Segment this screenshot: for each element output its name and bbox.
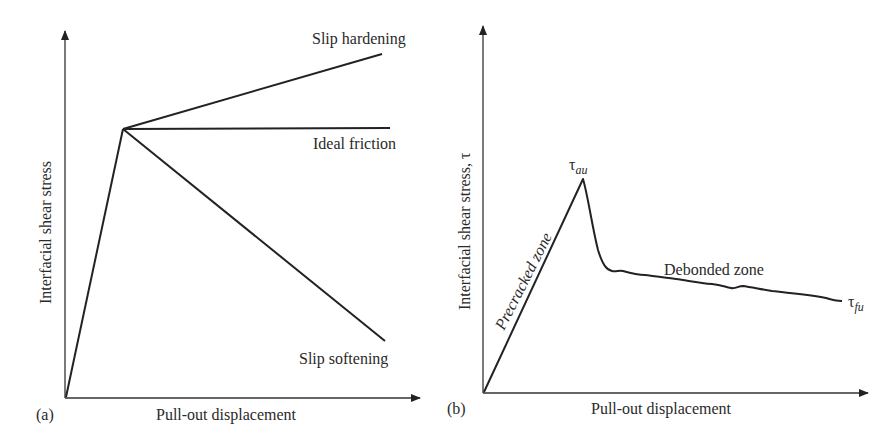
rising-line-a (66, 129, 123, 397)
label-tau-fu: τfu (848, 293, 864, 314)
label-precracked-zone: Precracked zone (491, 230, 555, 333)
label-ideal-friction: Ideal friction (313, 135, 396, 152)
xlabel-a: Pull-out displacement (156, 406, 297, 424)
xlabel-b: Pull-out displacement (591, 400, 732, 418)
ylabel-a: Interfacial shear stress (37, 161, 54, 304)
label-slip-hardening: Slip hardening (312, 30, 406, 48)
label-slip-softening: Slip softening (299, 350, 388, 368)
panel-tag-b: (b) (447, 400, 466, 418)
figure: Slip hardening Ideal friction Slip softe… (0, 0, 894, 448)
label-debonded-zone: Debonded zone (664, 261, 764, 278)
panel-b: τau τfu Debonded zone Precracked zone In… (447, 26, 868, 418)
ylabel-b: Interfacial shear stress, τ (456, 152, 473, 310)
label-tau-au: τau (569, 156, 587, 177)
slip-softening-line (123, 129, 385, 341)
stress-curve-b (484, 179, 842, 392)
panel-a: Slip hardening Ideal friction Slip softe… (36, 30, 420, 424)
panel-tag-a: (a) (36, 406, 54, 424)
ideal-friction-line (123, 128, 390, 129)
slip-hardening-line (123, 54, 382, 129)
